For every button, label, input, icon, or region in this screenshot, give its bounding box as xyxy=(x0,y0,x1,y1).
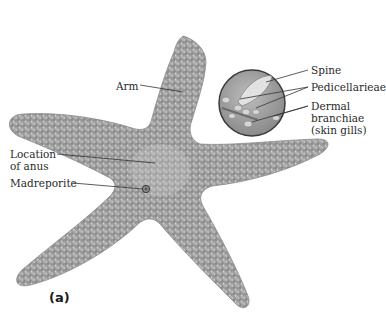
starfish-body xyxy=(9,36,328,308)
label-location-of-anus-line2: of anus xyxy=(10,160,56,172)
label-dermal-line1: Dermal xyxy=(311,100,367,112)
label-location-of-anus-line1: Location xyxy=(10,148,56,160)
label-spine: Spine xyxy=(311,64,341,76)
label-madreporite: Madreporite xyxy=(10,177,77,189)
label-dermal-branchiae: Dermal branchiae (skin gills) xyxy=(311,100,367,136)
inset-magnified-view xyxy=(219,70,285,136)
label-dermal-line3: (skin gills) xyxy=(311,124,367,136)
label-location-of-anus: Location of anus xyxy=(10,148,56,172)
panel-label: (a) xyxy=(49,290,70,305)
label-arm: Arm xyxy=(116,80,139,92)
label-dermal-line2: branchiae xyxy=(311,112,367,124)
label-pedicellarieae: Pedicellarieae xyxy=(311,81,386,93)
